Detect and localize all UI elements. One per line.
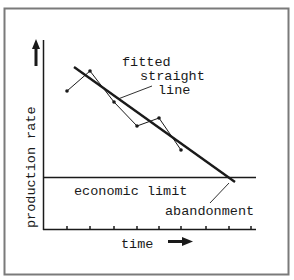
fitted-label-line1: fitted [122,55,171,70]
fitted-label-line2: straight [140,69,205,84]
abandonment-label: abandonment [165,204,254,219]
x-axis-label: time [121,237,153,252]
decline-curve-diagram: fitted straight line economic limit aban… [0,0,294,280]
fitted-label-line3: line [158,83,190,98]
economic-limit-label: economic limit [74,184,187,199]
y-axis-label: production rate [24,106,39,228]
figure-frame [5,9,289,275]
